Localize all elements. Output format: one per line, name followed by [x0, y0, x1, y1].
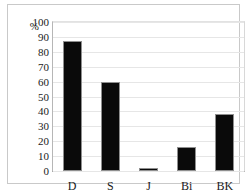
- x-axis-category-label: Bi: [181, 180, 192, 191]
- bar[interactable]: [177, 147, 196, 171]
- chart-frame: % 0102030405060708090100 DSJBiBK: [7, 4, 240, 184]
- y-axis-tick-label: 20: [38, 136, 49, 147]
- bars: DSJBiBK: [53, 22, 244, 171]
- y-axis-tick-label: 0: [44, 166, 50, 177]
- bar[interactable]: [63, 41, 82, 171]
- x-axis-category-label: J: [146, 180, 151, 191]
- y-axis-tick-label: 60: [38, 76, 49, 87]
- x-axis-category-label: S: [107, 180, 114, 191]
- bar-group: S: [101, 22, 120, 171]
- x-axis-category-label: BK: [217, 180, 234, 191]
- y-axis-tick-label: 40: [38, 106, 49, 117]
- y-axis-tick-label: 80: [38, 46, 49, 57]
- x-axis-category-label: D: [68, 180, 77, 191]
- y-axis-tick-label: 30: [38, 121, 49, 132]
- y-axis-tick-label: 10: [38, 151, 49, 162]
- bar[interactable]: [139, 168, 158, 171]
- bar-group: D: [63, 22, 82, 171]
- y-axis-tick-label: 50: [38, 91, 49, 102]
- y-axis-tick-label: 100: [33, 17, 50, 28]
- bar[interactable]: [215, 114, 234, 171]
- bar-group: BK: [215, 22, 234, 171]
- bar[interactable]: [101, 82, 120, 171]
- y-axis-tick-label: 70: [38, 61, 49, 72]
- gridline: [53, 171, 244, 172]
- y-axis-tick-label: 90: [38, 31, 49, 42]
- bar-group: J: [139, 22, 158, 171]
- bar-group: Bi: [177, 22, 196, 171]
- plot-area: 0102030405060708090100 DSJBiBK: [52, 21, 245, 172]
